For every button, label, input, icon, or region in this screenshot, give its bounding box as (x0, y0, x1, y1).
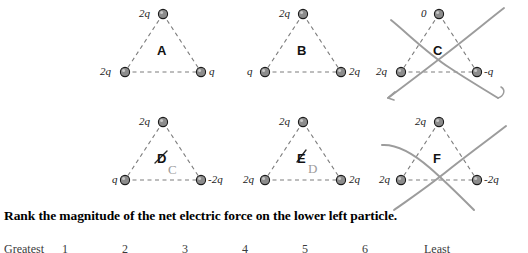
panel-f-crossout-mark (382, 126, 506, 210)
ranking-number-1[interactable]: 1 (62, 243, 68, 253)
panel-a-letter: A (157, 44, 166, 57)
panel-f-right-charge-label: -2q (484, 174, 499, 185)
panel-f-left-charge-label: 2q (379, 174, 390, 185)
panel-e-top-charge-label: 2q (279, 116, 290, 127)
ranking-least-label: Least (424, 243, 450, 253)
panel-d-right-charge-label: -2q (208, 174, 223, 185)
panel-d-letter: D (157, 152, 166, 165)
ranking-number-3[interactable]: 3 (182, 243, 188, 253)
panel-d-top-charge-label: 2q (139, 116, 150, 127)
panel-c-crossout-mark (388, 8, 504, 100)
panel-d-left-charge-label: q (112, 174, 118, 185)
panel-c-right-charge-label: -q (484, 66, 493, 77)
panel-b-letter: B (297, 44, 306, 57)
panel-c-left-charge-label: 2q (376, 66, 387, 77)
ranking-number-5[interactable]: 5 (302, 243, 308, 253)
ranking-scale-row: Greatest 1 2 3 4 5 6 Least (4, 243, 524, 253)
panel-f-top-charge-label: 2q (415, 116, 426, 127)
panel-e-left-charge-label: 2q (243, 174, 254, 185)
ranking-number-4[interactable]: 4 (242, 243, 248, 253)
question-prompt: Rank the magnitude of the net electric f… (4, 208, 397, 224)
panel-c-letter: C (433, 44, 442, 57)
panel-e-hand-annotation: D (308, 162, 317, 175)
ranking-greatest-label: Greatest (4, 243, 44, 253)
physics-ranking-figure: 2q 2q q A 2q q 2q B (0, 0, 528, 253)
panel-b-top-charge-label: 2q (279, 8, 290, 19)
panel-f: 2q 2q -2q F (358, 110, 523, 210)
panel-b-left-charge-label: q (247, 66, 253, 77)
panel-d-hand-annotation: C (168, 163, 177, 176)
ranking-number-6[interactable]: 6 (362, 243, 368, 253)
panel-e-letter: E (297, 152, 306, 165)
panel-a-left-charge-label: 2q (100, 66, 111, 77)
panel-a-right-charge-label: q (209, 66, 215, 77)
panel-c: 0 2q -q C (358, 2, 523, 102)
panel-c-top-charge-label: 0 (421, 8, 427, 19)
panel-f-letter: F (433, 152, 441, 165)
panel-a-top-charge-label: 2q (139, 8, 150, 19)
ranking-number-2[interactable]: 2 (122, 243, 128, 253)
